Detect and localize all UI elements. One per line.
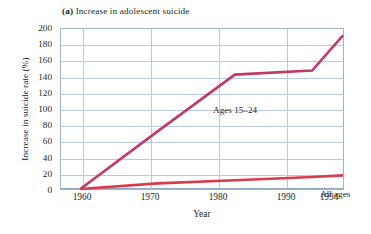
y-tick-20: 20 <box>43 169 52 179</box>
panel-label: (a) <box>62 6 73 16</box>
y-tick-100: 100 <box>38 104 52 114</box>
y-tick-200: 200 <box>38 23 52 33</box>
y-tick-60: 60 <box>43 136 52 146</box>
y-tick-80: 80 <box>43 120 52 130</box>
series-label-ages-15-24: Ages 15–24 <box>213 105 257 115</box>
x-tick-1994: 1994 <box>320 192 339 202</box>
plot-area: Ages 15–24 All ages <box>60 28 344 190</box>
y-axis-tick-labels: 0 20 40 60 80 100 120 140 160 180 200 <box>0 28 56 190</box>
figure-panel-a: (a) Increase in adolescent suicide Incre… <box>0 0 371 234</box>
series-canvas <box>61 29 343 189</box>
y-tick-180: 180 <box>38 39 52 49</box>
y-tick-160: 160 <box>38 55 52 65</box>
line-ages-15-24 <box>80 35 343 189</box>
figure-title-text: Increase in adolescent suicide <box>76 6 190 16</box>
x-axis-title: Year <box>60 209 344 219</box>
line-all-ages <box>80 175 343 189</box>
y-tick-140: 140 <box>38 72 52 82</box>
figure-title: (a) Increase in adolescent suicide <box>62 6 190 16</box>
x-tick-1970: 1970 <box>141 192 160 202</box>
y-tick-120: 120 <box>38 88 52 98</box>
x-axis-tick-labels: 1960 1970 1980 1990 1994 <box>0 192 371 208</box>
y-tick-40: 40 <box>43 153 52 163</box>
x-tick-1990: 1990 <box>277 192 296 202</box>
x-tick-1960: 1960 <box>73 192 92 202</box>
x-tick-1980: 1980 <box>209 192 228 202</box>
